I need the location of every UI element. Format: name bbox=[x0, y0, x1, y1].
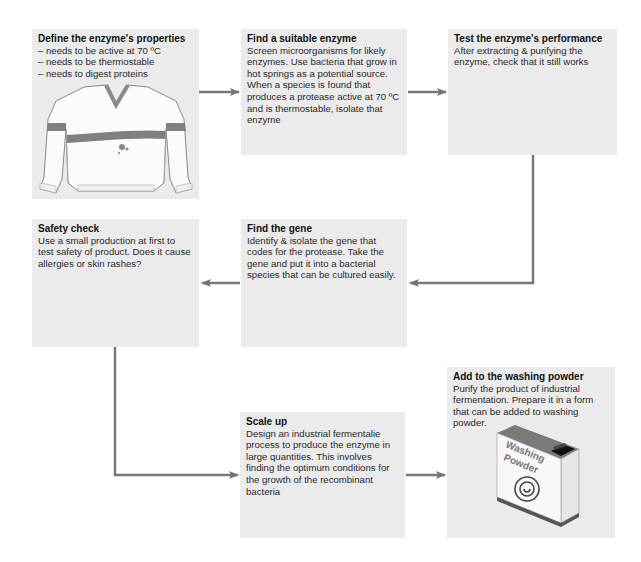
step-find-gene: Find the gene Identify & isolate the gen… bbox=[241, 219, 407, 347]
arrow-safety-to-scale-up bbox=[115, 347, 238, 475]
step-description: Design an industrial fermentalie process… bbox=[246, 428, 399, 498]
step-description: Screen microorganisms for likely enzymes… bbox=[247, 45, 401, 126]
step-title: Test the enzyme's performance bbox=[454, 33, 611, 45]
step-find-suitable-enzyme: Find a suitable enzyme Screen microorgan… bbox=[241, 29, 407, 155]
step-title: Find the gene bbox=[247, 223, 401, 235]
step-description: After extracting & purifying the enzyme,… bbox=[454, 45, 611, 68]
step-title: Add to the washing powder bbox=[453, 371, 609, 383]
step-safety-check: Safety check Use a small production at f… bbox=[32, 219, 199, 347]
step-title: Safety check bbox=[38, 223, 193, 235]
washing-powder-box-icon: Washing Powder bbox=[491, 423, 581, 533]
step-define-properties: Define the enzyme's properties – needs t… bbox=[32, 29, 199, 199]
arrow-test-to-find-gene bbox=[410, 155, 533, 283]
sweater-icon bbox=[36, 79, 196, 197]
requirement-line: – needs to digest proteins bbox=[38, 68, 193, 80]
requirement-line: – needs to be thermostable bbox=[38, 56, 193, 68]
step-title: Scale up bbox=[246, 416, 399, 428]
step-description: Identify & isolate the gene that codes f… bbox=[247, 235, 401, 281]
step-test-performance: Test the enzyme's performance After extr… bbox=[448, 29, 617, 155]
step-title: Define the enzyme's properties bbox=[38, 33, 193, 45]
step-title: Find a suitable enzyme bbox=[247, 33, 401, 45]
step-description: Purify the product of industrial ferment… bbox=[453, 383, 609, 429]
step-description: Use a small production at first to test … bbox=[38, 235, 193, 270]
step-add-to-washing-powder: Add to the washing powder Purify the pro… bbox=[447, 367, 615, 538]
step-scale-up: Scale up Design an industrial fermentali… bbox=[240, 412, 405, 538]
requirement-line: – needs to be active at 70 ºC bbox=[38, 45, 193, 57]
